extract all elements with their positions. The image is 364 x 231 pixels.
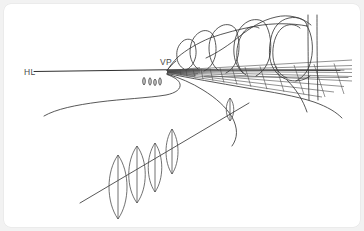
shoreline-group bbox=[44, 74, 237, 146]
wave-lip-large bbox=[296, 26, 312, 81]
surfboard-distant bbox=[149, 78, 152, 85]
surfboards-distant-cluster bbox=[143, 78, 162, 86]
grid-rung bbox=[334, 63, 344, 94]
surfboard-foreground bbox=[109, 155, 127, 219]
surfboards-foreground bbox=[109, 129, 178, 219]
vertical-posts bbox=[308, 15, 318, 100]
vertical-post-left bbox=[308, 15, 309, 100]
label-horizon-line: HL bbox=[24, 67, 36, 77]
figure-frame: HL VP bbox=[0, 0, 364, 231]
wave-curl-2-inner bbox=[237, 27, 259, 75]
wave-crest-upper-arc bbox=[206, 16, 311, 58]
drawing-surface: HL VP bbox=[4, 4, 360, 227]
grid-rail bbox=[167, 73, 322, 97]
surfboard-foreground bbox=[129, 146, 146, 203]
label-vanishing-point: VP bbox=[160, 57, 172, 67]
surfboard-distant bbox=[143, 78, 146, 86]
perspective-sketch: HL VP bbox=[4, 4, 360, 227]
wave-curl-large bbox=[269, 17, 310, 80]
surfboard-distant bbox=[159, 78, 162, 85]
board-row-axis-line bbox=[80, 103, 249, 203]
surfboard-distant bbox=[154, 79, 157, 86]
vertical-post-right bbox=[317, 15, 318, 100]
surfboard-foreground bbox=[148, 143, 162, 192]
